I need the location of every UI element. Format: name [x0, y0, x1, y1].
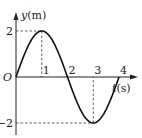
y-axis-unit: (m) — [27, 9, 46, 22]
y-tick-label: 2 — [6, 25, 13, 38]
x-tick-label: 4 — [120, 64, 127, 77]
x-tick-label: 3 — [94, 64, 101, 77]
origin-label: O — [3, 71, 12, 84]
x-axis-unit: (s) — [116, 82, 130, 95]
x-axis-arrow-icon — [130, 75, 138, 80]
x-tick-label: 1 — [43, 64, 50, 77]
x-tick-label: 2 — [69, 64, 76, 77]
y-axis-label: y(m) — [20, 9, 46, 22]
y-axis-arrow-icon — [14, 12, 19, 20]
y-tick-label: −2 — [0, 117, 13, 130]
chart: y(m) t(s) O 12342−2 — [0, 0, 142, 138]
